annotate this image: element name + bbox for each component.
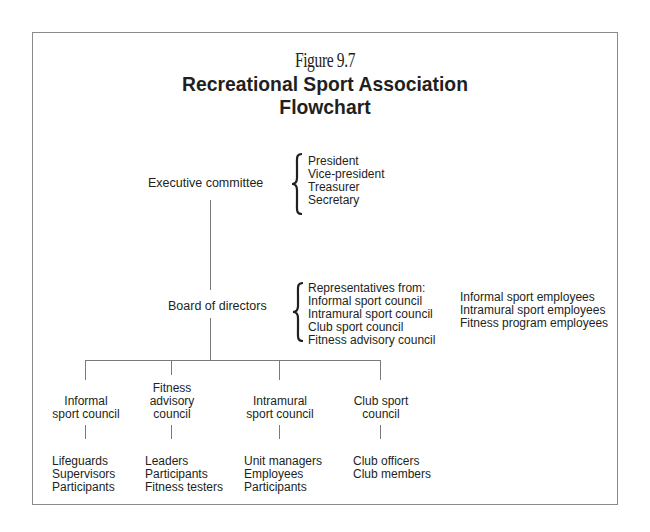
figure-title-line2: Flowchart — [26, 95, 624, 118]
figure-title-line1: Recreational Sport Association — [26, 72, 624, 95]
executive-brace-icon — [290, 152, 304, 216]
connector-fitness-members — [171, 425, 172, 439]
branch-club — [380, 360, 381, 380]
council-informal: Informal sport council — [45, 395, 127, 421]
council-branch-line — [85, 360, 381, 361]
executive-members: President Vice-president Treasurer Secre… — [308, 155, 385, 207]
connector-exec-board — [210, 200, 211, 290]
council-fitness: Fitness advisory council — [131, 382, 213, 421]
club-members: Club officers Club members — [353, 455, 431, 481]
connector-board-down — [210, 318, 211, 361]
representative-item: Fitness advisory council — [308, 334, 435, 347]
informal-members: Lifeguards Supervisors Participants — [52, 455, 115, 494]
board-brace-icon — [291, 281, 305, 343]
branch-intramural — [279, 360, 280, 380]
branch-informal — [85, 360, 86, 380]
connector-informal-members — [85, 425, 86, 439]
fitness-members: Leaders Participants Fitness testers — [145, 455, 223, 494]
branch-fitness — [171, 360, 172, 375]
connector-intramural-members — [279, 425, 280, 439]
council-club: Club sport council — [340, 395, 422, 421]
council-intramural: Intramural sport council — [234, 395, 326, 421]
figure-number: Figure 9.7 — [72, 49, 579, 72]
intramural-members: Unit managers Employees Participants — [244, 455, 322, 494]
board-employees: Informal sport employees Intramural spor… — [460, 291, 608, 330]
connector-club-members — [380, 425, 381, 439]
board-of-directors-label: Board of directors — [168, 300, 267, 313]
executive-committee-label: Executive committee — [148, 177, 263, 190]
board-representatives: Representatives from: Informal sport cou… — [308, 282, 435, 347]
employee-item: Fitness program employees — [460, 317, 608, 330]
executive-member: Secretary — [308, 194, 385, 207]
